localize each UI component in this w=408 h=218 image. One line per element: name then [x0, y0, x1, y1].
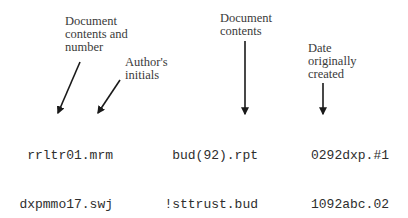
- label-line: contents: [220, 25, 272, 38]
- filename-column-left: rrltr01.mrm dxpmmo17.swj rrmmo51.swj abc…: [19, 115, 113, 218]
- filename: 0292dxp.#1: [311, 148, 389, 164]
- filename: rrltr01.mrm: [19, 148, 113, 164]
- label-line: number: [65, 41, 128, 54]
- label-date-originally-created: Date originally created: [308, 42, 357, 81]
- arrow-document-contents-and-number: [58, 62, 80, 113]
- filename: !sttrust.bud: [164, 197, 258, 213]
- label-authors-initials: Author's initials: [125, 56, 168, 82]
- filename: 1092abc.02: [311, 197, 389, 213]
- filename-column-middle: bud(92).rpt !sttrust.bud jobs92.rpt drug…: [164, 115, 258, 218]
- arrow-authors-initials: [98, 80, 120, 113]
- label-document-contents-and-number: Document contents and number: [65, 15, 128, 54]
- label-document-contents: Document contents: [220, 12, 272, 38]
- label-line: initials: [125, 69, 168, 82]
- label-line: created: [308, 68, 357, 81]
- filename-column-right: 0292dxp.#1 1092abc.02 0893rr.445 1193dxp…: [311, 115, 389, 218]
- filename: bud(92).rpt: [164, 148, 258, 164]
- filename: dxpmmo17.swj: [19, 197, 113, 213]
